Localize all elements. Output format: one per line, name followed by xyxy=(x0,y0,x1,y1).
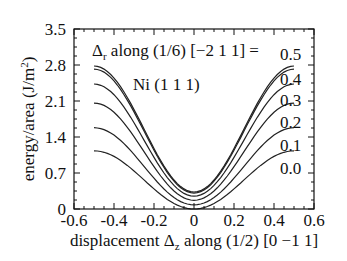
x-tick-label: 0.4 xyxy=(263,211,285,230)
x-tick-label: -0.2 xyxy=(141,211,168,230)
curve-0.2 xyxy=(94,103,294,200)
series-label: 0.5 xyxy=(280,45,301,64)
y-tick-label: 1.4 xyxy=(45,128,67,147)
y-tick-label: 0.7 xyxy=(45,164,67,183)
y-tick-label: 2.8 xyxy=(45,56,66,75)
x-tick-label: 0.2 xyxy=(223,211,244,230)
x-axis-label: displacement Δz along (1/2) [0 −1 1] xyxy=(70,231,318,252)
energy-displacement-chart: 00.71.42.12.83.5 -0.6-0.4-0.200.20.40.6 … xyxy=(0,0,347,261)
series-labels: 0.50.40.30.20.10.0 xyxy=(280,45,302,178)
series-label: 0.2 xyxy=(280,113,301,132)
x-tick-label: 0 xyxy=(190,211,199,230)
series-label: 0.0 xyxy=(280,159,301,178)
y-axis-label: energy/area (J/m2) xyxy=(18,57,38,182)
y-tick-label: 2.1 xyxy=(45,92,66,111)
curve-0.3 xyxy=(94,84,294,196)
series-label: 0.1 xyxy=(280,136,301,155)
x-tick-labels: -0.6-0.4-0.200.20.40.6 xyxy=(61,211,325,230)
y-tick-labels: 00.71.42.12.83.5 xyxy=(45,20,67,219)
y-tick-label: 3.5 xyxy=(45,20,66,39)
legend-title: Δr along (1/6) [−2 1 1] = xyxy=(92,41,259,62)
material-label: Ni (1 1 1) xyxy=(133,75,200,94)
series-label: 0.3 xyxy=(280,91,301,110)
x-tick-label: -0.4 xyxy=(101,211,128,230)
x-tick-label: 0.6 xyxy=(303,211,324,230)
x-tick-label: -0.6 xyxy=(61,211,88,230)
series-label: 0.4 xyxy=(280,70,302,89)
